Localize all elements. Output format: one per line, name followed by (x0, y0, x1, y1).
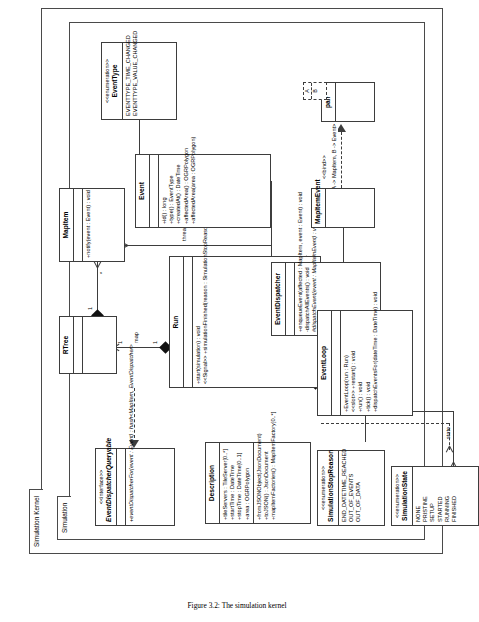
class-member: +tick() : void (365, 314, 372, 412)
enum-literal: EVENTTYPE_VALUE_CHANGED (132, 46, 139, 116)
class-member: +type() : EventType (168, 158, 175, 224)
class-attributes (74, 189, 82, 261)
uml-class-diagram: Simulation Kernel Simulation map 1 1 1 *… (21, 2, 453, 562)
realization-run-to-queryable (134, 388, 135, 438)
class-stereotype: <<enumeration>> (104, 46, 111, 116)
class-member: +area : OGRPolygon (244, 446, 251, 520)
class-name: EventDispatcher (274, 266, 282, 332)
class-member: +enqueueEvent(affected : MapItem, event … (297, 266, 304, 332)
class-name: EventLoop (320, 314, 328, 412)
class-name: EventDispatcherQueryable (105, 452, 113, 522)
class-operations (82, 317, 91, 373)
bind-stereotype-label: <<bind>> (321, 154, 328, 180)
class-member: <<Signal>> +simulationFinished(reason : … (202, 260, 209, 384)
class-operations: +id() : long +type() : EventType +create… (158, 155, 199, 227)
class-header: Description (206, 443, 220, 523)
multiplicity-rtree-mapitem-far: * (99, 272, 105, 274)
class-member: +tileServers : TileServer[0..*] (222, 446, 229, 520)
class-event-type[interactable]: <<enumeration>> EventType EVENTTYPE_TIME… (101, 42, 177, 120)
class-mapitem[interactable]: MapItem +notify(event : Event) : void (59, 188, 125, 262)
class-member: +affectedArea() : OGRPolygon (183, 158, 190, 224)
arrow-rtree-mapitem (94, 261, 101, 268)
class-member: +fromJSONObject(JsonDocument) (256, 446, 263, 520)
class-attributes (326, 189, 334, 227)
class-event-dispatcher-queryable[interactable]: <<interface>> EventDispatcherQueryable +… (95, 448, 175, 526)
enum-literal: SETUP (429, 470, 436, 522)
arrow-run-stopreason (446, 446, 453, 453)
class-member: +eventDispatcherFor(event : Event) : has… (128, 452, 135, 522)
class-header: MapItem (60, 189, 74, 261)
class-event[interactable]: Event +id() : long +type() : EventType +… (135, 154, 271, 228)
class-member: +start(simulation) : void (195, 260, 202, 384)
class-header: <<interface>> EventDispatcherQueryable (96, 449, 117, 525)
class-description[interactable]: Description +tileServers : TileServer[0.… (205, 442, 311, 524)
dependency-run-stopreason-v (321, 423, 449, 424)
class-member: +startTime : DateTime (229, 446, 236, 520)
template-parameters-pair: A B (303, 82, 327, 100)
class-simulation-state[interactable]: <<enumeration>> SimulationState NONE PRI… (391, 466, 479, 526)
class-member: +mapItemFactories() : MapItemFactory[0..… (270, 446, 277, 520)
assoc-dispatcher-mapitemevent (343, 228, 344, 262)
class-member: +stopTime : DateTime[0..1] (236, 446, 243, 520)
class-attributes (184, 257, 192, 387)
class-name: Run (172, 260, 180, 384)
assoc-event-eventtype (139, 120, 140, 154)
class-name: SimulationStopReason (327, 454, 335, 522)
class-header: EventLoop (318, 311, 332, 415)
class-mapitem-event[interactable]: MapItemEvent (311, 188, 375, 228)
class-header: MapItemEvent (312, 189, 326, 227)
class-operations: +fromJSONObject(JsonDocument) +toJSON() … (253, 443, 280, 523)
enum-literal: EVENTTYPE_TIME_CHANGED (125, 46, 132, 116)
class-name: EventType (111, 46, 119, 116)
class-name: SimulationState (401, 470, 409, 522)
multiplicity-rtree-mapitem-near: 1 (87, 307, 93, 310)
class-name: MapItemEvent (314, 192, 322, 224)
class-member: <<slot>> +restart() : void (350, 314, 357, 412)
class-pair[interactable]: pair (321, 82, 375, 122)
class-member: +affectedArea(area : OGRPolygon) (190, 158, 197, 224)
enum-literal: FINISHED (451, 470, 458, 522)
multiplicity-run-rtree-near: 1 (152, 341, 158, 344)
class-literals: END_DATETIME_REACHED OUT_OF_EVENTS OUT_O… (339, 451, 365, 525)
class-event-loop[interactable]: EventLoop +EventLoop(run : Run) <<slot>>… (317, 310, 413, 416)
class-name: MapItem (62, 192, 70, 258)
class-name: Event (138, 158, 146, 224)
class-header: EventDispatcher (272, 263, 286, 335)
package-simulation-kernel-tab: Simulation Kernel (29, 489, 43, 554)
class-member: +createdAt() : DateTime (175, 158, 182, 224)
class-attributes (286, 263, 294, 335)
class-header: Run (170, 257, 184, 387)
class-header: <<enumeration>> EventType (102, 43, 123, 119)
class-name: RTree (62, 320, 70, 370)
bind-dependency-line (341, 132, 342, 188)
class-header: <<enumeration>> SimulationState (392, 467, 413, 525)
figure-caption: Figure 3.2: The simulation kernel (0, 601, 474, 610)
enum-literal: OUT_OF_DATA (355, 454, 362, 522)
class-header: Event (136, 155, 150, 227)
enum-literal: RUNNING (444, 470, 451, 522)
bind-text-label: <A -> MapItem, B -> Event> (331, 123, 338, 194)
class-literals: NONE PRISTINE SETUP STARTED RUNNING FINI… (413, 467, 460, 525)
assoc-run-state-h (453, 411, 454, 466)
assoc-dispatcher-event-h (271, 181, 272, 262)
class-stereotype: <<enumeration>> (320, 454, 327, 522)
class-operations: +eventDispatcherFor(event : Event) : has… (125, 449, 137, 525)
class-attributes (150, 155, 158, 227)
class-stereotype: <<enumeration>> (394, 470, 401, 522)
enum-literal: STARTED (437, 470, 444, 522)
class-member: +id() : long (161, 158, 168, 224)
class-simulation-stop-reason[interactable]: <<enumeration>> SimulationStopReason END… (317, 450, 385, 526)
class-member: -dispatchAllEvents() : void (304, 266, 311, 332)
class-operations: +notify(event : Event) : void (82, 189, 94, 261)
class-member: +EventLoop(run : Run) (343, 314, 350, 412)
class-attributes (332, 311, 340, 415)
class-operations: +EventLoop(run : Run) <<slot>> +restart(… (340, 311, 381, 415)
class-name: Description (208, 446, 216, 520)
template-param: A (304, 83, 312, 99)
class-header: <<enumeration>> SimulationStopReason (318, 451, 339, 525)
class-rtree[interactable]: RTree (59, 316, 117, 374)
enum-literal: PRISTINE (422, 470, 429, 522)
enum-literal: OUT_OF_EVENTS (348, 454, 355, 522)
class-member: +run() : void (357, 314, 364, 412)
